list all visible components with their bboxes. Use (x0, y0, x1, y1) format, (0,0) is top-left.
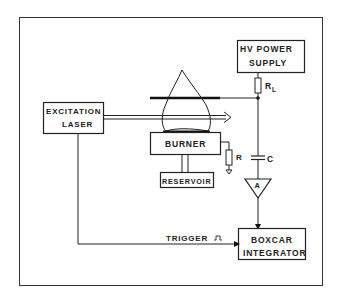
burner-resistor: R (220, 142, 243, 174)
laser-line2: LASER (62, 120, 93, 129)
reservoir-block: RESERVOIR (161, 173, 214, 188)
burner-block: BURNER (151, 132, 221, 155)
flame (162, 70, 210, 131)
laser-beam (103, 112, 231, 123)
pulse-icon (214, 236, 222, 240)
laser-line1: EXCITATION (46, 107, 101, 116)
diagram-canvas: HV POWER SUPPLY R L C A BOXCAR INTEGRATO… (0, 0, 338, 301)
reservoir-label: RESERVOIR (162, 177, 211, 186)
boxcar-line1: BOXCAR (251, 235, 293, 245)
load-resistor-subscript: L (272, 86, 277, 93)
burner-label: BURNER (165, 139, 206, 149)
boxcar-integrator-block: BOXCAR INTEGRATOR (239, 229, 307, 260)
reservoir-stem (182, 155, 188, 172)
capacitor-label: C (267, 154, 274, 164)
amplifier: A (245, 179, 271, 198)
hv-power-supply-block: HV POWER SUPPLY (238, 41, 305, 73)
burner-resistor-label: R (236, 153, 243, 162)
boxcar-line2: INTEGRATOR (243, 248, 306, 258)
trigger-label: TRIGGER (166, 234, 208, 243)
capacitor: C (251, 154, 274, 164)
hv-supply-line1: HV POWER (240, 44, 293, 54)
load-resistor-label: R (265, 81, 272, 91)
load-resistor: R L (255, 72, 277, 98)
excitation-laser-block: EXCITATION LASER (44, 103, 104, 134)
hv-supply-line2: SUPPLY (249, 58, 287, 68)
amplifier-label: A (255, 181, 261, 190)
ground-icon (226, 170, 232, 174)
